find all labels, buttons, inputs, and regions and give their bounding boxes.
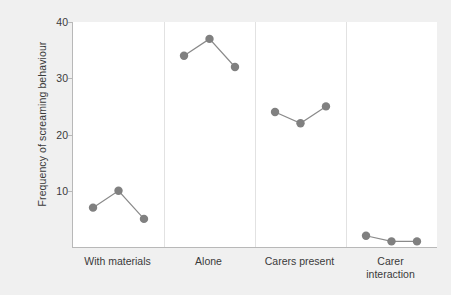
panel-series-1 [89, 187, 148, 224]
x-panel-label: With materials [84, 255, 151, 268]
y-tick-label: 40 [34, 16, 68, 28]
y-axis-title: Frequency of screaming behaviour [36, 4, 48, 244]
data-point[interactable] [322, 102, 330, 110]
data-point[interactable] [296, 119, 304, 127]
chart-figure: Frequency of screaming behaviour 1020304… [0, 0, 451, 295]
data-point[interactable] [231, 63, 239, 71]
x-panel-label: Alone [195, 255, 222, 268]
data-point[interactable] [89, 203, 97, 211]
series-line [184, 39, 235, 67]
x-panel-label: Carer interaction [366, 255, 414, 281]
data-point[interactable] [114, 187, 122, 195]
data-point[interactable] [140, 215, 148, 223]
data-point[interactable] [362, 232, 370, 240]
data-point[interactable] [205, 35, 213, 43]
y-tick-label: 30 [34, 72, 68, 84]
data-point[interactable] [271, 108, 279, 116]
data-point[interactable] [413, 237, 421, 245]
plot-area [72, 22, 437, 248]
x-panel-label: Carers present [265, 255, 334, 268]
data-point[interactable] [387, 237, 395, 245]
panel-series-3 [271, 102, 330, 127]
series-line [93, 191, 144, 219]
y-tick-label: 10 [34, 185, 68, 197]
data-series-layer [73, 22, 437, 247]
panel-series-2 [180, 35, 239, 72]
panel-series-4 [362, 232, 421, 246]
data-point[interactable] [180, 52, 188, 60]
y-tick-label: 20 [34, 129, 68, 141]
